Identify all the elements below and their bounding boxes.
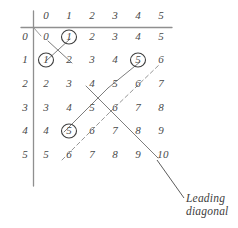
column-header-1: 1 [59,10,79,21]
row-header-4: 4 [15,125,35,136]
cell-r2-c2: 4 [82,78,102,89]
cell-r2-c1: 3 [59,78,79,89]
cell-r4-c4: 8 [128,125,148,136]
cell-r0-c5: 5 [151,31,171,42]
row-header-3: 3 [15,102,35,113]
cell-r0-c4: 4 [128,31,148,42]
cell-r4-c2: 6 [82,125,102,136]
cell-r2-c5: 7 [151,78,171,89]
cell-r0-c2: 2 [82,31,102,42]
column-header-2: 2 [82,10,102,21]
column-header-5: 5 [151,10,171,21]
cell-r4-c0: 4 [36,125,56,136]
cell-r2-c0: 2 [36,78,56,89]
cell-r5-c4: 9 [128,149,148,160]
cell-r3-c0: 3 [36,102,56,113]
cell-r1-c1: 2 [59,54,79,65]
cell-r3-c5: 8 [151,102,171,113]
cell-r4-c5: 9 [151,125,171,136]
cell-r1-c0: 1 [36,54,56,65]
addition-table-figure: 0 1 2 3 4 5 0 1 2 3 4 5 0 1 2 3 4 5 1 2 … [0,0,238,228]
cell-r4-c1: 5 [59,125,79,136]
cell-r2-c4: 6 [128,78,148,89]
cell-r1-c2: 3 [82,54,102,65]
cell-r5-c5: 10 [153,149,173,160]
cell-r3-c4: 7 [128,102,148,113]
cell-r0-c1: 1 [59,31,79,42]
leading-diagonal-leader [157,160,184,198]
row-header-1: 1 [15,54,35,65]
cell-r1-c4: 5 [128,54,148,65]
cell-r1-c3: 4 [105,54,125,65]
row-header-0: 0 [15,31,35,42]
cell-r2-c3: 5 [105,78,125,89]
cell-r3-c1: 4 [59,102,79,113]
cell-r5-c0: 5 [36,149,56,160]
cell-r3-c2: 5 [82,102,102,113]
cell-r5-c2: 7 [82,149,102,160]
leading-diagonal-label: Leading diagonal [186,192,229,218]
cell-r0-c3: 3 [105,31,125,42]
column-header-0: 0 [36,10,56,21]
cell-r4-c3: 7 [105,125,125,136]
cell-r5-c3: 8 [105,149,125,160]
cell-r0-c0: 0 [36,31,56,42]
leader-line [157,160,184,198]
cell-r5-c1: 6 [59,149,79,160]
column-header-4: 4 [128,10,148,21]
column-header-3: 3 [105,10,125,21]
cell-r3-c3: 6 [105,102,125,113]
row-header-5: 5 [15,149,35,160]
row-header-2: 2 [15,78,35,89]
cell-r1-c5: 6 [151,54,171,65]
